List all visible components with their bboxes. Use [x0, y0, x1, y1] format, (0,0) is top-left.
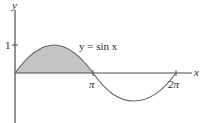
x-axis-label: x — [193, 66, 199, 78]
x-tick-label-two-pi: 2π — [168, 78, 180, 90]
y-axis-label: y — [11, 0, 17, 11]
sine-graph: y 1 y = sin x π 2π x — [0, 0, 204, 123]
x-tick-label-pi: π — [89, 78, 95, 90]
function-label: y = sin x — [79, 40, 118, 52]
y-tick-label-one: 1 — [5, 39, 11, 51]
